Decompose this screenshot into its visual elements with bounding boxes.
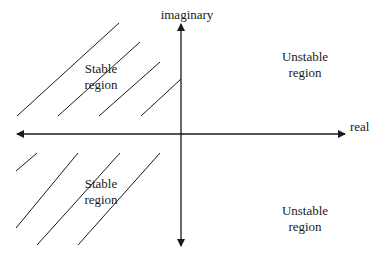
upper-right-region-label-line1: Unstable — [282, 49, 328, 64]
lower-left-region-label-line2: region — [84, 192, 118, 207]
upper-left-region-label-line1: Stable — [85, 61, 118, 76]
upper-left-region-label-line2: region — [84, 77, 118, 92]
lower-left-region-label-line1: Stable — [85, 176, 118, 191]
imaginary-axis-label: imaginary — [161, 7, 214, 22]
lower-right-region-label-line1: Unstable — [282, 203, 328, 218]
lower-right-region-label-line2: region — [288, 219, 322, 234]
upper-right-region-label-line2: region — [288, 65, 322, 80]
stability-diagram: imaginary real Stable region Unstable re… — [0, 0, 381, 256]
real-axis-label: real — [350, 119, 370, 134]
